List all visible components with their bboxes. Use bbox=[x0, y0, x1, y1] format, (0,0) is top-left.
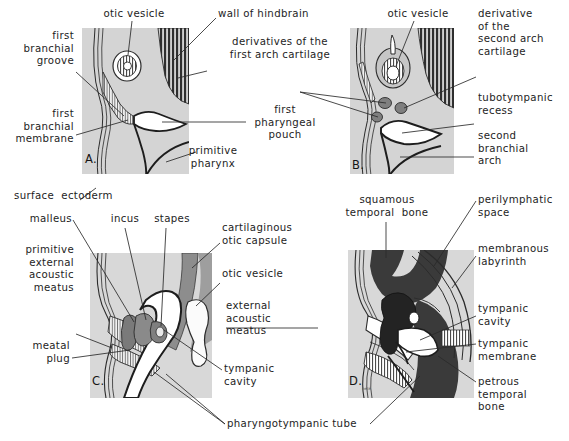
label-c-external-acoustic-meatus: external acoustic meatus bbox=[226, 300, 312, 338]
label-d-tympanic-cavity: tympanic cavity bbox=[478, 303, 568, 328]
label-a-wall-of-hindbrain: wall of hindbrain bbox=[218, 8, 348, 21]
panel-label-c: C. bbox=[92, 374, 105, 388]
label-c-pharyngotympanic-tube: pharyngotympanic tube bbox=[227, 418, 377, 431]
label-b-otic-vesicle: otic vesicle bbox=[370, 8, 466, 21]
label-a-derivatives-first-arch-cartilage: derivatives of the first arch cartilage bbox=[206, 36, 354, 61]
panel-label-d: D. bbox=[349, 374, 362, 388]
label-c-surface-ectoderm: surface ectoderm bbox=[14, 190, 174, 203]
label-c-meatal-plug: meatal plug bbox=[0, 340, 70, 365]
label-b-tubotympanic-recess: tubotympanic recess bbox=[478, 92, 569, 117]
label-a-otic-vesicle: otic vesicle bbox=[86, 8, 182, 21]
panel-c-artwork bbox=[90, 253, 212, 398]
artist-signature: neté bbox=[362, 386, 371, 391]
label-a-primitive-pharynx: primitive pharynx bbox=[176, 145, 250, 170]
label-a-first-branchial-membrane: first branchial membrane bbox=[0, 108, 74, 146]
label-b-derivative-second-arch-cartilage: derivative of the second arch cartilage bbox=[478, 8, 569, 58]
label-b-second-branchial-arch: second branchial arch bbox=[478, 130, 569, 168]
label-c-primitive-external-acoustic-meatus: primitive external acoustic meatus bbox=[0, 244, 74, 294]
label-a-first-branchial-groove: first branchial groove bbox=[0, 30, 74, 68]
label-c-incus: incus bbox=[98, 213, 152, 226]
label-c-malleus: malleus bbox=[0, 213, 72, 226]
panel-d-artwork bbox=[348, 250, 474, 398]
label-c-cartilaginous-otic-capsule: cartilaginous otic capsule bbox=[222, 222, 324, 247]
panel-label-b: B. bbox=[352, 158, 364, 172]
label-c-otic-vesicle: otic vesicle bbox=[222, 268, 324, 281]
figure-canvas: otic vesicle wall of hindbrain first bra… bbox=[0, 0, 569, 441]
label-d-tympanic-membrane: tympanic membrane bbox=[478, 338, 568, 363]
label-d-perilymphatic-space: perilymphatic space bbox=[478, 194, 568, 219]
label-a-first-pharyngeal-pouch: first pharyngeal pouch bbox=[248, 104, 322, 142]
label-c-tympanic-cavity: tympanic cavity bbox=[224, 363, 304, 388]
label-d-petrous-temporal-bone: petrous temporal bone bbox=[478, 376, 568, 414]
panel-label-a: A. bbox=[85, 152, 97, 166]
label-d-membranous-labyrinth: membranous labyrinth bbox=[478, 243, 568, 268]
label-d-squamous-temporal-bone: squamous temporal bone bbox=[330, 194, 444, 219]
label-c-stapes: stapes bbox=[145, 213, 199, 226]
panel-a-artwork bbox=[82, 28, 189, 176]
